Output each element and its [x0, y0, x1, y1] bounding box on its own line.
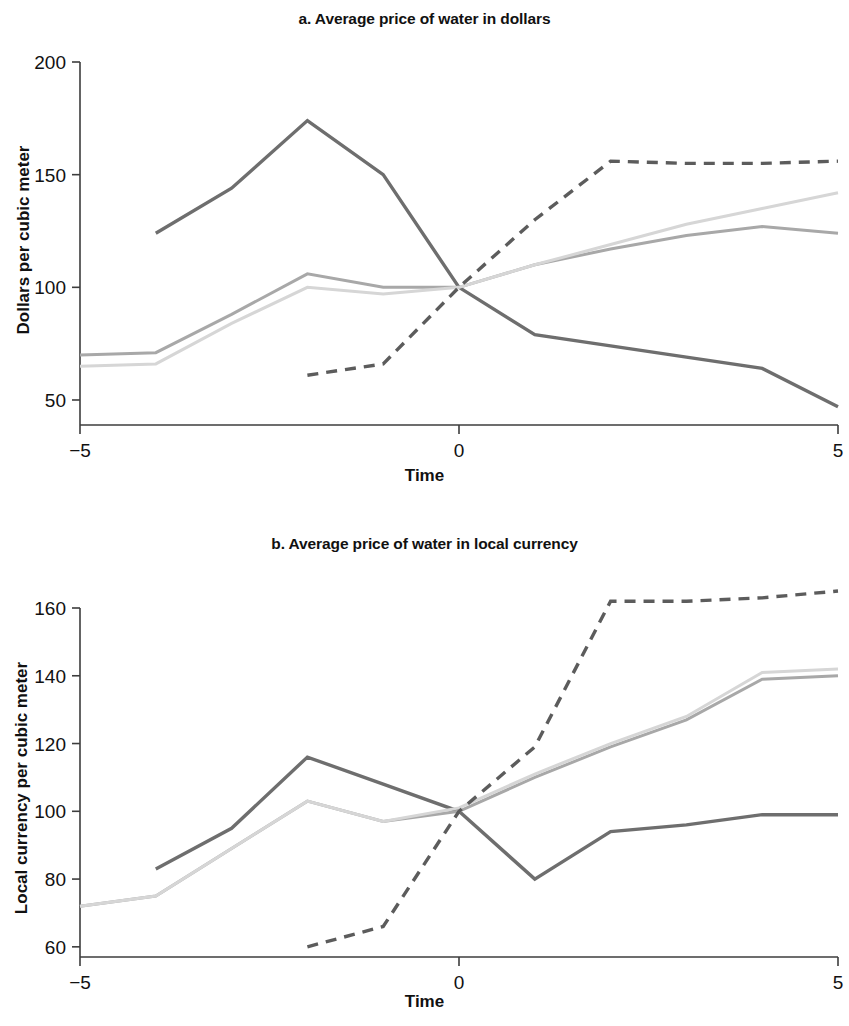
y-tick-label: 140	[34, 666, 66, 687]
y-tick-label: 150	[34, 165, 66, 186]
panel-b-plot: 6080100120140160−505	[0, 513, 849, 1026]
series-dark-dashed	[307, 591, 838, 947]
series-light-solid	[80, 193, 838, 367]
series-medium-solid	[80, 226, 838, 354]
y-tick-label: 80	[45, 869, 66, 890]
y-tick-label: 120	[34, 734, 66, 755]
y-tick-label: 100	[34, 277, 66, 298]
x-tick-label: −5	[69, 972, 91, 993]
y-tick-label: 200	[34, 52, 66, 73]
x-tick-label: 0	[454, 440, 465, 461]
x-tick-label: −5	[69, 440, 91, 461]
panel-b-x-axis-label: Time	[0, 992, 849, 1012]
x-tick-label: 5	[833, 440, 844, 461]
y-tick-label: 60	[45, 937, 66, 958]
y-tick-label: 50	[45, 390, 66, 411]
series-dark-solid	[156, 121, 838, 407]
panel-a-x-axis-label: Time	[0, 466, 849, 486]
panel-b: b. Average price of water in local curre…	[0, 513, 849, 1026]
x-tick-label: 5	[833, 972, 844, 993]
panel-a-plot: 50100150200−505	[0, 0, 849, 513]
series-light-solid	[80, 669, 838, 906]
y-tick-label: 100	[34, 801, 66, 822]
panel-a: a. Average price of water in dollars Dol…	[0, 0, 849, 513]
water-price-figure: a. Average price of water in dollars Dol…	[0, 0, 849, 1026]
y-tick-label: 160	[34, 598, 66, 619]
series-dark-dashed	[307, 161, 838, 375]
x-tick-label: 0	[454, 972, 465, 993]
series-dark-solid	[156, 757, 838, 879]
